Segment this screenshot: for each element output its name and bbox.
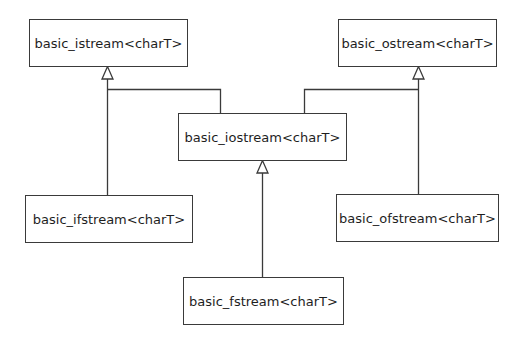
class-box-basic-fstream[interactable]: basic_fstream<charT> — [183, 277, 344, 325]
class-label: basic_iostream<charT> — [185, 130, 341, 145]
class-box-basic-iostream[interactable]: basic_iostream<charT> — [178, 113, 347, 161]
class-label: basic_ofstream<charT> — [339, 211, 496, 226]
class-box-basic-ofstream[interactable]: basic_ofstream<charT> — [336, 194, 499, 242]
class-box-basic-istream[interactable]: basic_istream<charT> — [29, 19, 188, 67]
class-box-basic-ifstream[interactable]: basic_ifstream<charT> — [25, 195, 193, 243]
inheritance-arrow-icon — [102, 67, 113, 80]
inheritance-arrow-icon — [257, 161, 268, 174]
edge-iostream-istream — [108, 90, 221, 114]
inheritance-arrow-icon — [413, 67, 424, 80]
class-label: basic_ifstream<charT> — [33, 212, 185, 227]
edge-iostream-ostream — [305, 90, 419, 114]
class-label: basic_ostream<charT> — [341, 36, 493, 51]
class-label: basic_istream<charT> — [35, 36, 183, 51]
class-box-basic-ostream[interactable]: basic_ostream<charT> — [338, 19, 497, 67]
class-label: basic_fstream<charT> — [189, 294, 338, 309]
